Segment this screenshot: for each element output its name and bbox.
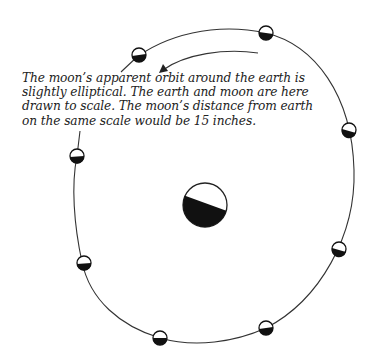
moon-bottom <box>153 331 167 345</box>
caption-line: on the same scale would be 15 inches. <box>22 114 352 128</box>
caption-line: slightly elliptical. The earth and moon … <box>22 85 352 99</box>
moon-lower-right <box>332 242 346 257</box>
moon-left <box>70 149 84 164</box>
moon-top-left <box>132 48 146 62</box>
direction-arrow <box>159 51 258 73</box>
moon-bottom-right <box>259 321 273 335</box>
moon-top-right <box>259 26 273 40</box>
caption-line: drawn to scale. The moon’s distance from… <box>22 99 352 113</box>
earth <box>180 183 230 230</box>
moon-orbit-diagram <box>0 0 378 358</box>
moon-lower-left <box>77 256 91 271</box>
caption-line: The moon’s apparent orbit around the ear… <box>22 71 352 85</box>
caption: The moon’s apparent orbit around the ear… <box>22 71 352 128</box>
